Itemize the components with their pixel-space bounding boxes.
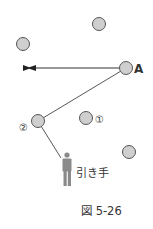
ball-a	[120, 62, 133, 75]
person-icon	[63, 152, 72, 186]
label-a: A	[134, 62, 144, 76]
figure-caption: 図 5-26	[81, 204, 122, 218]
ball-lower-right	[123, 146, 136, 159]
arrow-head-icon	[27, 65, 36, 71]
path-line-a-to-2	[43, 71, 121, 118]
path-line-2-to-puller	[41, 126, 61, 158]
label-1: ①	[95, 114, 104, 125]
label-2: ②	[19, 122, 28, 133]
ball-left	[17, 38, 30, 51]
label-puller: 引き手	[76, 166, 109, 180]
ball-top	[93, 18, 106, 31]
diagram-canvas: A ① ② 引き手 図 5-26	[0, 0, 153, 229]
ball-1	[80, 112, 93, 125]
ball-2	[32, 115, 45, 128]
